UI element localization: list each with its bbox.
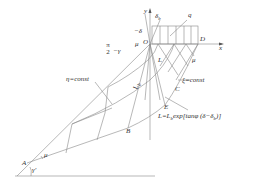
label-mu-o: μ (135, 41, 139, 48)
label-delta-b: δb (155, 13, 161, 21)
lower-boundary (27, 44, 198, 163)
label-d: D (200, 36, 205, 43)
label-o: O (143, 39, 148, 46)
label-mu-a: μ (44, 152, 48, 159)
label-lb: Lb (133, 82, 142, 90)
label-pi-frac: π2 (104, 42, 112, 56)
y-axis-arrow-icon (149, 8, 152, 13)
label-xi-const: ξ=const (182, 77, 205, 84)
label-neg-delta: −δ (134, 28, 142, 35)
label-eta-const: η=const (66, 76, 89, 83)
label-e: E (164, 104, 168, 111)
slip-line-diagram: y δb q −δ O μ D x π2 −γ L μ η=const ξ=co… (0, 0, 253, 193)
label-x-axis: x (219, 45, 222, 52)
label-gamma-prime: γ' (32, 167, 36, 174)
label-q: q (188, 12, 192, 19)
label-minus-gamma: −γ (113, 48, 120, 55)
label-a: A (22, 160, 26, 167)
upper-boundary (17, 44, 150, 176)
label-l: L (158, 57, 162, 64)
label-y-axis: y (144, 8, 147, 15)
diagram-lines (0, 0, 253, 193)
label-b: B (126, 128, 130, 135)
label-c: C (175, 86, 180, 93)
label-mu-d: μ (192, 57, 196, 64)
formula: L=Lbexp[tanφ (δ−δb)] (158, 113, 221, 121)
